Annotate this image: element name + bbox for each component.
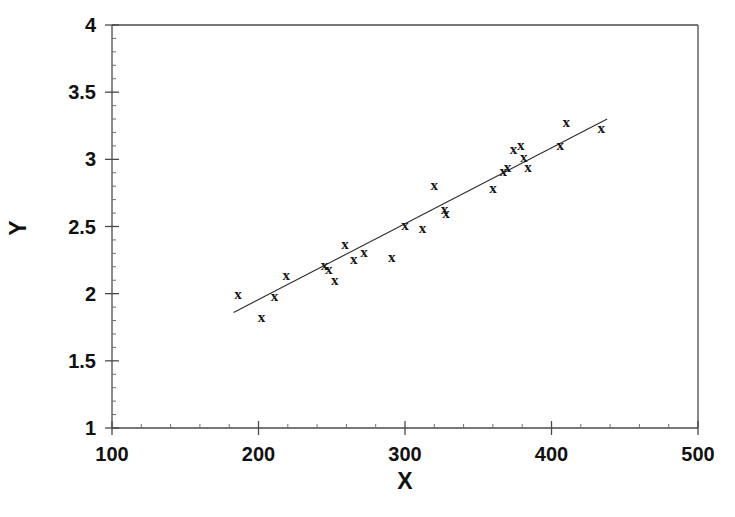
y-tick-label: 3.5 <box>68 81 96 103</box>
x-tick-label: 500 <box>681 443 714 465</box>
data-point-marker: x <box>401 217 409 233</box>
scatter-plot-figure: 100200300400500 11.522.533.54 xxxxxxxxxx… <box>0 0 735 517</box>
y-tick-label: 1.5 <box>68 350 96 372</box>
y-tick-label: 3 <box>85 148 96 170</box>
data-point-marker: x <box>331 272 339 288</box>
data-point-marker: x <box>258 309 266 325</box>
x-tick-label: 400 <box>535 443 568 465</box>
data-point-marker: x <box>341 236 349 252</box>
data-point-marker: x <box>598 120 606 136</box>
data-point-marker: x <box>562 114 570 130</box>
data-point-marker: x <box>419 220 427 236</box>
y-tick-label: 1 <box>85 417 96 439</box>
x-tick-label: 100 <box>95 443 128 465</box>
data-point-marker: x <box>442 205 450 221</box>
data-point-marker: x <box>557 137 565 153</box>
x-axis-title: X <box>397 468 413 494</box>
y-tick-label: 2 <box>85 283 96 305</box>
data-point-marker: x <box>431 177 439 193</box>
y-axis-title: Y <box>5 220 31 235</box>
data-point-marker: x <box>524 159 532 175</box>
plot-canvas: 100200300400500 11.522.533.54 xxxxxxxxxx… <box>0 0 735 517</box>
y-tick-label: 4 <box>85 14 97 36</box>
data-point-marker: x <box>504 159 512 175</box>
data-point-marker: x <box>388 249 396 265</box>
data-point-marker: x <box>350 251 358 267</box>
data-point-marker: x <box>489 180 497 196</box>
data-point-marker: x <box>283 267 291 283</box>
x-tick-label: 200 <box>242 443 275 465</box>
data-point-marker: x <box>271 288 279 304</box>
y-tick-label: 2.5 <box>68 216 96 238</box>
data-point-marker: x <box>360 244 368 260</box>
data-point-marker: x <box>234 286 242 302</box>
x-tick-label: 300 <box>388 443 421 465</box>
